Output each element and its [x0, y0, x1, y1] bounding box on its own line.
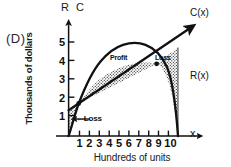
x-tick-label: 10 — [162, 137, 178, 149]
y-tick-label: 5 — [53, 36, 65, 48]
x-axis-variable-label: x — [190, 127, 196, 139]
y-axis-title: Thousands of dollars — [23, 24, 34, 134]
y-tick-label: 3 — [53, 73, 65, 85]
y-tick-label: 2 — [53, 92, 65, 104]
revenue-curve-label: R(x) — [190, 70, 209, 81]
revenue-cost-figure: (D) R C Thousands of dollars Hundreds of… — [0, 0, 231, 167]
profit-shaded-region — [79, 63, 157, 104]
cost-curve-label: C(x) — [190, 7, 209, 18]
break-even-point-left — [76, 101, 81, 106]
x-axis-title: Hundreds of units — [72, 152, 192, 163]
loss-region-left-label: ←Loss — [76, 114, 102, 123]
y-tick-label: 4 — [53, 55, 65, 67]
x-axis-ticks — [80, 131, 169, 136]
break-even-point-right — [154, 61, 159, 66]
y-tick-label: 1 — [53, 110, 65, 122]
loss-region-right-label: Loss — [155, 54, 171, 61]
y-axis-ticks — [69, 42, 75, 116]
profit-region-label: Profit — [110, 54, 127, 61]
axis-head-label: R C — [61, 1, 86, 13]
